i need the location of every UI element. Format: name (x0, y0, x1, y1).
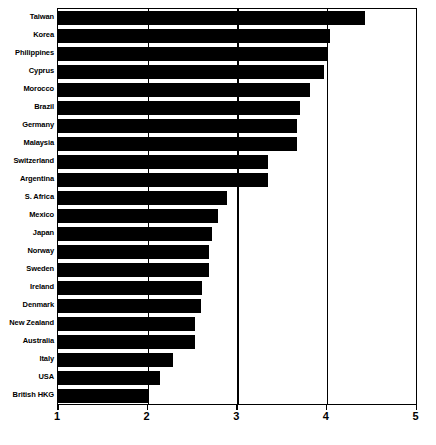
bar (58, 245, 209, 259)
bar (58, 281, 202, 295)
category-label: Cyprus (0, 66, 54, 75)
bar-row (58, 389, 417, 403)
bar (58, 353, 173, 367)
bar (58, 83, 310, 97)
bar (58, 29, 330, 43)
bar-row (58, 353, 417, 367)
bar-row (58, 245, 417, 259)
category-label: Sweden (0, 264, 54, 273)
category-label: Japan (0, 228, 54, 237)
category-label: New Zealand (0, 318, 54, 327)
bar-row (58, 155, 417, 169)
bar (58, 227, 212, 241)
bar (58, 209, 218, 223)
category-label: Norway (0, 246, 54, 255)
bar (58, 47, 328, 61)
bar (58, 101, 300, 115)
bar (58, 317, 195, 331)
category-label: USA (0, 372, 54, 381)
bar (58, 155, 268, 169)
bar-row (58, 83, 417, 97)
bar (58, 173, 268, 187)
x-axis-tick-label: 3 (224, 410, 248, 422)
bar (58, 191, 227, 205)
value-axis-labels: 12345 (0, 410, 436, 430)
category-label: Brazil (0, 102, 54, 111)
bar-row (58, 209, 417, 223)
category-label: Morocco (0, 84, 54, 93)
category-label: British HKG (0, 390, 54, 399)
bar-row (58, 11, 417, 25)
category-label: Malaysia (0, 138, 54, 147)
bar (58, 371, 160, 385)
bar-row (58, 101, 417, 115)
bar (58, 119, 297, 133)
bar (58, 263, 209, 277)
category-label: Italy (0, 354, 54, 363)
bar-row (58, 299, 417, 313)
bar-row (58, 119, 417, 133)
bar-row (58, 191, 417, 205)
bar-row (58, 317, 417, 331)
x-axis-tick-label: 1 (45, 410, 69, 422)
bars-layer (58, 9, 416, 404)
x-axis-tick-label: 2 (135, 410, 159, 422)
category-label: Philippines (0, 48, 54, 57)
bar-row (58, 65, 417, 79)
category-label: Switzerland (0, 156, 54, 165)
bar-row (58, 371, 417, 385)
category-label: Argentina (0, 174, 54, 183)
bar (58, 389, 149, 403)
category-label: Germany (0, 120, 54, 129)
bar (58, 11, 365, 25)
bar (58, 137, 297, 151)
category-label: Taiwan (0, 12, 54, 21)
bar-row (58, 263, 417, 277)
category-axis-labels: TaiwanKoreaPhilippinesCyprusMoroccoBrazi… (0, 8, 54, 405)
category-label: Mexico (0, 210, 54, 219)
category-label: Australia (0, 336, 54, 345)
bar-row (58, 47, 417, 61)
bar-row (58, 137, 417, 151)
category-label: Ireland (0, 282, 54, 291)
bar-row (58, 227, 417, 241)
bar (58, 299, 201, 313)
bar (58, 335, 195, 349)
category-label: Korea (0, 30, 54, 39)
bar-row (58, 173, 417, 187)
bar-row (58, 29, 417, 43)
x-axis-tick-label: 4 (314, 410, 338, 422)
bar (58, 65, 324, 79)
bar-row (58, 335, 417, 349)
x-axis-tick-label: 5 (404, 410, 428, 422)
bar-row (58, 281, 417, 295)
bar-chart: TaiwanKoreaPhilippinesCyprusMoroccoBrazi… (0, 0, 436, 445)
category-label: Denmark (0, 300, 54, 309)
category-label: S. Africa (0, 192, 54, 201)
plot-area (57, 8, 417, 405)
